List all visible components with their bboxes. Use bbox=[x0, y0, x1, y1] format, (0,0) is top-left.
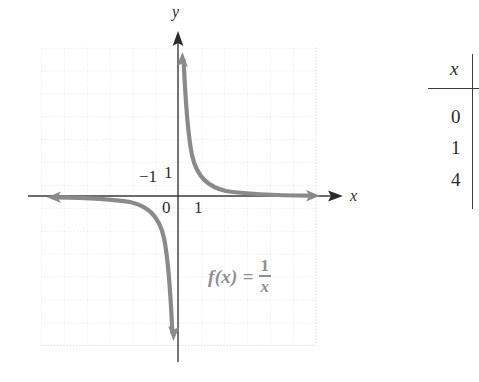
function-name: f(x) bbox=[208, 266, 238, 288]
function-equation: f(x) = 1 x bbox=[208, 258, 271, 296]
graph-figure: y x −1 1 0 1 f(x) = 1 x bbox=[0, 0, 379, 382]
y-axis-label: y bbox=[172, 4, 179, 20]
values-table: x 0 1 4 bbox=[400, 40, 479, 210]
tick-label-x-one: 1 bbox=[194, 199, 203, 216]
fraction-numerator: 1 bbox=[259, 257, 272, 275]
table-header-rule bbox=[428, 88, 479, 89]
table-row: 1 bbox=[451, 138, 461, 157]
table-row: 4 bbox=[451, 170, 461, 189]
fraction-denominator: x bbox=[259, 277, 272, 295]
graph-svg bbox=[0, 0, 379, 382]
tick-label-negative-one: −1 bbox=[139, 168, 157, 185]
fraction-one-over-x: 1 x bbox=[259, 257, 272, 295]
x-axis-label: x bbox=[350, 188, 357, 204]
tick-label-y-one: 1 bbox=[164, 164, 173, 181]
table-column-rule bbox=[472, 54, 473, 209]
equals-sign: = bbox=[243, 266, 254, 288]
tick-label-origin: 0 bbox=[162, 199, 171, 216]
figure-page: y x −1 1 0 1 f(x) = 1 x x 0 1 4 bbox=[0, 0, 479, 382]
table-header-x: x bbox=[450, 59, 458, 78]
table-row: 0 bbox=[451, 107, 461, 126]
